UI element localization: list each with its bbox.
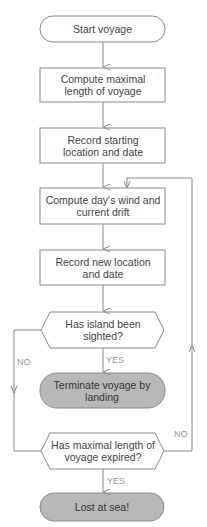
expired-no-label: NO	[174, 429, 188, 439]
terminate-terminator: Terminate voyage by landing	[52, 373, 152, 408]
lost-terminator: Lost at sea!	[40, 493, 164, 521]
compute-max-step: Compute maximal length of voyage	[48, 68, 158, 102]
decision-expired: Has maximal length of voyage expired?	[50, 433, 156, 469]
expired-yes-label: YES	[107, 476, 125, 486]
record-new-step: Record new location and date	[48, 250, 158, 285]
decision-island: Has island been sighted?	[60, 312, 146, 348]
start-terminator: Start voyage	[40, 16, 165, 42]
island-no-label: NO	[17, 357, 31, 367]
island-yes-label: YES	[106, 355, 124, 365]
record-start-step: Record starting location and date	[48, 128, 158, 163]
compute-wind-step: Compute day's wind and current drift	[44, 188, 162, 224]
